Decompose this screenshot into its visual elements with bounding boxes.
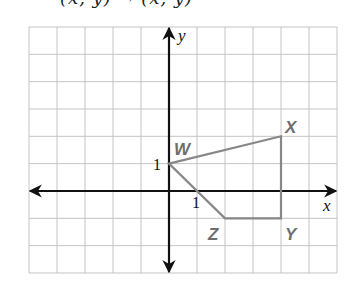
vertex-label-x: X [284,118,298,137]
y-tick-label-1: 1 [153,156,161,173]
y-axis-label: y [176,26,186,45]
vertex-label-z: Z [207,225,219,244]
x-axis-label: x [322,196,331,215]
x-tick-label-1: 1 [192,194,200,211]
vertex-label-w: W [174,140,192,159]
vertex-label-y: Y [285,225,298,244]
coordinate-plane: y x 1 1 W X Y Z [0,0,360,282]
